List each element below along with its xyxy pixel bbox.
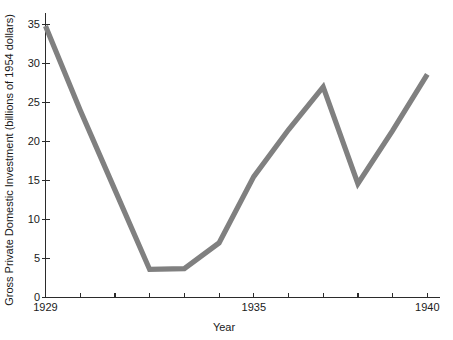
x-tick-label: 1940 bbox=[415, 301, 439, 313]
chart-container: Gross Private Domestic Investment (billi… bbox=[0, 0, 453, 340]
x-axis-title: Year bbox=[213, 321, 236, 333]
y-tick-label: 25 bbox=[28, 96, 40, 108]
x-tick-label: 1929 bbox=[33, 301, 57, 313]
y-tick-label: 10 bbox=[28, 213, 40, 225]
y-tick-label: 30 bbox=[28, 57, 40, 69]
y-axis-title: Gross Private Domestic Investment (billi… bbox=[3, 14, 15, 306]
x-tick-label: 1935 bbox=[242, 301, 266, 313]
y-tick-label: 35 bbox=[28, 18, 40, 30]
y-tick-label: 5 bbox=[34, 252, 40, 264]
y-tick-label: 15 bbox=[28, 174, 40, 186]
line-chart: Gross Private Domestic Investment (billi… bbox=[0, 0, 453, 340]
y-tick-label: 20 bbox=[28, 135, 40, 147]
data-series-line bbox=[46, 26, 428, 269]
